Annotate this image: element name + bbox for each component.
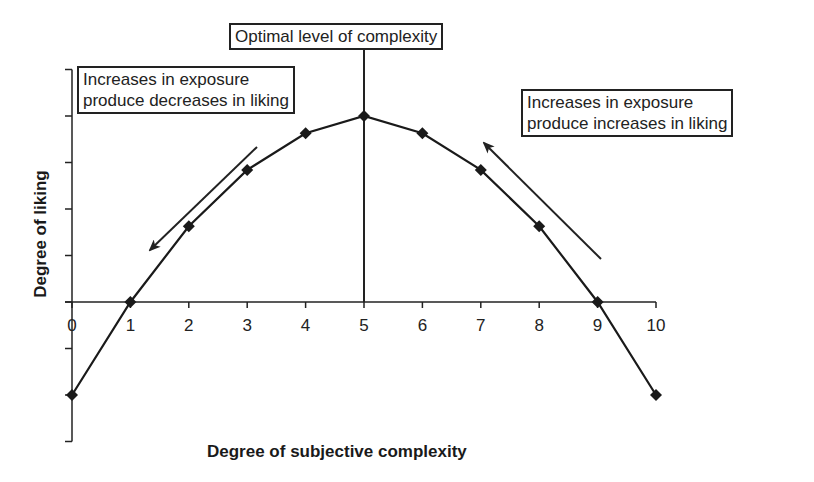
diamond-marker (416, 127, 428, 139)
exposure-arrows (150, 143, 601, 259)
decreases-annotation-box: Increases in exposure produce decreases … (77, 66, 295, 114)
diamond-marker (650, 389, 662, 401)
x-tick-label: 0 (67, 316, 76, 335)
optimal-level-label: Optimal level of complexity (229, 23, 443, 50)
x-tick-label: 1 (126, 316, 135, 335)
y-axis-label: Degree of liking (31, 159, 51, 309)
x-tick-label: 7 (476, 316, 485, 335)
x-tick-label: 10 (647, 316, 666, 335)
arrow-down-left-icon (150, 147, 257, 250)
diamond-marker (300, 127, 312, 139)
x-tick-label: 9 (593, 316, 602, 335)
increases-annotation-box: Increases in exposure produce increases … (521, 89, 733, 137)
arrow-up-left-icon (484, 143, 601, 259)
x-tick-label: 2 (184, 316, 193, 335)
x-tick-label: 5 (359, 316, 368, 335)
x-axis-label: Degree of subjective complexity (207, 442, 467, 462)
diamond-marker (66, 389, 78, 401)
diamond-marker (358, 110, 370, 122)
x-tick-label: 4 (301, 316, 310, 335)
x-tick-label: 8 (534, 316, 543, 335)
x-tick-label: 3 (242, 316, 251, 335)
x-tick-label: 6 (418, 316, 427, 335)
